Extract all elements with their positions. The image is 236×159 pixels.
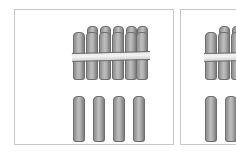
bundle-band: [204, 51, 236, 62]
illustration-canvas: [0, 0, 236, 159]
stick-body: [225, 100, 236, 142]
loose-stick: [93, 96, 105, 142]
loose-sticks-group: [205, 96, 236, 144]
loose-sticks-group: [73, 96, 149, 144]
stick-body: [73, 100, 85, 142]
panel-right-content: [181, 10, 236, 144]
loose-stick: [73, 96, 85, 142]
loose-stick: [205, 96, 217, 142]
panel-left-content: [15, 10, 173, 144]
stick-body: [205, 100, 217, 142]
panel-left: [14, 9, 174, 145]
bundle-of-ten-right: [205, 26, 236, 80]
loose-stick: [225, 96, 236, 142]
bundle-of-ten: [73, 26, 149, 80]
panel-right: [180, 9, 236, 145]
stick-body: [133, 100, 145, 142]
stick-body: [93, 100, 105, 142]
loose-stick: [113, 96, 125, 142]
loose-stick: [133, 96, 145, 142]
stick-body: [113, 100, 125, 142]
